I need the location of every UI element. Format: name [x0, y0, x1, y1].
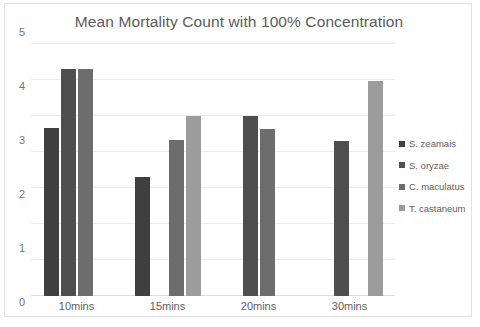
- bar-slot: [95, 44, 110, 296]
- legend-item-label: T. castaneum: [409, 203, 466, 214]
- bar-group: 10mins: [31, 44, 122, 296]
- chart-title: Mean Mortality Count with 100% Concentra…: [5, 13, 473, 31]
- bar[interactable]: [78, 69, 93, 296]
- bar-slot: [351, 44, 366, 296]
- bar-slot: [243, 44, 258, 296]
- bar-group: 20mins: [213, 44, 304, 296]
- legend-swatch-icon: [399, 162, 405, 168]
- bar-group: 15mins: [122, 44, 213, 296]
- chart-legend: S. zeamaisS. oryzaeC. maculatusT. castan…: [399, 138, 477, 224]
- bar[interactable]: [169, 140, 184, 296]
- bar-slot: [277, 44, 292, 296]
- bar[interactable]: [243, 116, 258, 296]
- bar-group: 30mins: [304, 44, 395, 296]
- bar-slot: [368, 44, 383, 296]
- x-axis-tick-label: 10mins: [31, 300, 122, 312]
- chart-frame: Mean Mortality Count with 100% Concentra…: [4, 3, 472, 317]
- bar-slot: [334, 44, 349, 296]
- bar-slot: [61, 44, 76, 296]
- bar-slot: [317, 44, 332, 296]
- legend-swatch-icon: [399, 184, 405, 190]
- bar-groups: 10mins15mins20mins30mins: [31, 44, 395, 296]
- legend-swatch-icon: [399, 205, 405, 211]
- bar-slot: [135, 44, 150, 296]
- bar-slot: [152, 44, 167, 296]
- bar[interactable]: [334, 141, 349, 296]
- bar-slot: [44, 44, 59, 296]
- x-axis-tick-label: 20mins: [213, 300, 304, 312]
- legend-item-label: S. oryzae: [409, 160, 449, 171]
- bar[interactable]: [61, 69, 76, 296]
- legend-item-label: C. maculatus: [409, 181, 464, 192]
- bar-slot: [78, 44, 93, 296]
- bar-slot: [260, 44, 275, 296]
- x-axis-tick-label: 15mins: [122, 300, 213, 312]
- legend-item[interactable]: C. maculatus: [399, 181, 477, 192]
- y-axis-tick-label: 7: [3, 0, 25, 170]
- legend-item[interactable]: S. zeamais: [399, 138, 477, 149]
- legend-swatch-icon: [399, 141, 405, 147]
- bar[interactable]: [186, 116, 201, 296]
- plot-wrapper: 01234567 10mins15mins20mins30mins: [31, 44, 395, 296]
- legend-item-label: S. zeamais: [409, 138, 456, 149]
- bar[interactable]: [260, 129, 275, 296]
- bar[interactable]: [44, 128, 59, 296]
- bar[interactable]: [135, 177, 150, 296]
- bar-slot: [169, 44, 184, 296]
- legend-item[interactable]: T. castaneum: [399, 203, 477, 214]
- legend-item[interactable]: S. oryzae: [399, 160, 477, 171]
- x-axis-tick-label: 30mins: [304, 300, 395, 312]
- bar-slot: [186, 44, 201, 296]
- bar[interactable]: [368, 81, 383, 296]
- bar-slot: [226, 44, 241, 296]
